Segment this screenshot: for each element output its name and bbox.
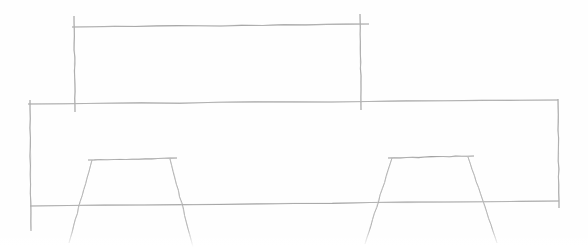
sketch-svg — [0, 0, 588, 247]
canvas-background — [0, 0, 588, 247]
bottom-fade-overlay — [0, 228, 588, 247]
sketch-canvas — [0, 0, 588, 247]
